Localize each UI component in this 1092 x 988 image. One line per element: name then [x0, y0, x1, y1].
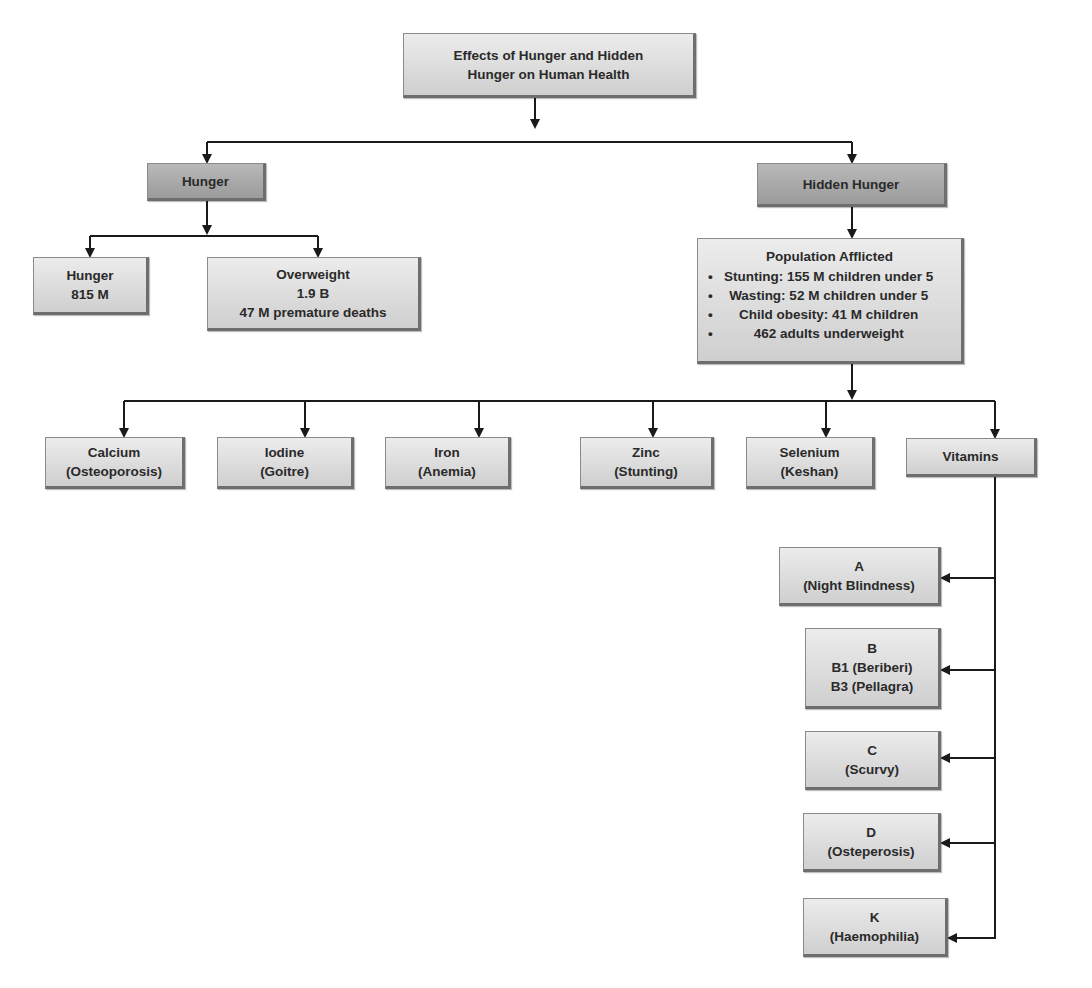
title-box: Effects of Hunger and Hidden Hunger on H… — [403, 33, 696, 98]
population-item: 462 adults underweight — [708, 324, 933, 343]
vitamin-b-box: B B1 (Beriberi) B3 (Pellagra) — [805, 628, 941, 709]
hidden-hunger-box: Hidden Hunger — [757, 163, 947, 207]
deficiency-selenium-box: Selenium (Keshan) — [746, 437, 875, 489]
vitamin-condition: (Night Blindness) — [803, 576, 915, 595]
deficiency-nutrient: Iron — [434, 443, 460, 462]
deficiency-nutrient: Vitamins — [942, 447, 998, 466]
hunger-count-line-2: 815 M — [71, 285, 109, 304]
vitamin-condition: (Scurvy) — [845, 760, 899, 779]
overweight-line-3: 47 M premature deaths — [239, 303, 386, 322]
population-afflicted-box: Population Afflicted Stunting: 155 M chi… — [697, 238, 964, 364]
deficiency-condition: (Anemia) — [418, 462, 476, 481]
population-item: Child obesity: 41 M children — [708, 305, 933, 324]
deficiency-nutrient: Calcium — [88, 443, 141, 462]
vitamin-name: A — [854, 557, 864, 576]
population-item: Wasting: 52 M children under 5 — [708, 286, 933, 305]
deficiency-condition: (Stunting) — [614, 462, 678, 481]
vitamin-name: C — [867, 741, 877, 760]
vitamin-name: D — [866, 823, 876, 842]
deficiency-iron-box: Iron (Anemia) — [385, 437, 511, 489]
deficiency-calcium-box: Calcium (Osteoporosis) — [45, 437, 185, 489]
population-list: Stunting: 155 M children under 5 Wasting… — [698, 267, 933, 343]
hunger-count-box: Hunger 815 M — [33, 257, 149, 315]
hidden-hunger-label: Hidden Hunger — [803, 175, 900, 194]
vitamin-condition: B1 (Beriberi) — [831, 658, 912, 677]
population-heading: Population Afflicted — [766, 247, 893, 266]
deficiency-condition: (Goitre) — [260, 462, 309, 481]
deficiency-nutrient: Selenium — [779, 443, 839, 462]
deficiency-condition: (Osteoporosis) — [66, 462, 162, 481]
hunger-count-line-1: Hunger — [66, 266, 113, 285]
overweight-line-2: 1.9 B — [297, 284, 329, 303]
vitamin-condition: B3 (Pellagra) — [831, 677, 914, 696]
vitamin-d-box: D (Osteperosis) — [803, 813, 941, 872]
title-line-1: Effects of Hunger and Hidden — [454, 46, 644, 65]
deficiency-iodine-box: Iodine (Goitre) — [217, 437, 354, 489]
overweight-line-1: Overweight — [276, 265, 350, 284]
overweight-box: Overweight 1.9 B 47 M premature deaths — [207, 257, 421, 331]
population-item: Stunting: 155 M children under 5 — [708, 267, 933, 286]
vitamin-condition: (Haemophilia) — [830, 927, 919, 946]
vitamin-c-box: C (Scurvy) — [805, 731, 941, 790]
hunger-label: Hunger — [182, 172, 229, 191]
vitamin-condition: (Osteperosis) — [827, 842, 914, 861]
vitamin-a-box: A (Night Blindness) — [779, 547, 941, 606]
deficiency-nutrient: Iodine — [265, 443, 305, 462]
deficiency-nutrient: Zinc — [632, 443, 660, 462]
title-line-2: Hunger on Human Health — [467, 65, 629, 84]
deficiency-vitamins-box: Vitamins — [906, 438, 1037, 477]
hunger-box: Hunger — [147, 163, 266, 201]
vitamin-k-box: K (Haemophilia) — [803, 898, 948, 957]
deficiency-zinc-box: Zinc (Stunting) — [580, 437, 714, 489]
vitamin-name: K — [870, 908, 880, 927]
vitamin-name: B — [867, 639, 877, 658]
deficiency-condition: (Keshan) — [781, 462, 839, 481]
